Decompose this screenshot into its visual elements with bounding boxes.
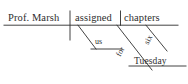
indirect-object-label: us [95,38,102,46]
sentence-diagram: Prof. Marsh assigned chapters us for six… [0,0,188,84]
indirect-object-slant [78,25,96,49]
prepositional-object-label: Tuesday [134,57,167,67]
verb-label: assigned [75,13,112,24]
direct-object-label: chapters [124,13,160,24]
subject-label: Prof. Marsh [8,13,59,24]
